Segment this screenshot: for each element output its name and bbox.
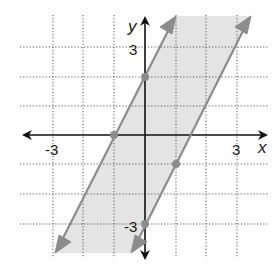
y-tick-max: 3 (129, 41, 137, 58)
y-axis-label: y (127, 17, 138, 36)
point-0-neg3 (141, 220, 149, 228)
x-axis-label: x (257, 138, 267, 157)
x-tick-min: -3 (45, 141, 58, 158)
point-1-neg1 (172, 160, 180, 168)
coordinate-graph: y x 3 -3 -3 3 (0, 0, 273, 265)
point-neg1-0 (110, 131, 118, 139)
x-tick-max: 3 (232, 141, 240, 158)
y-tick-min: -3 (124, 218, 137, 235)
point-0-2 (141, 73, 149, 81)
